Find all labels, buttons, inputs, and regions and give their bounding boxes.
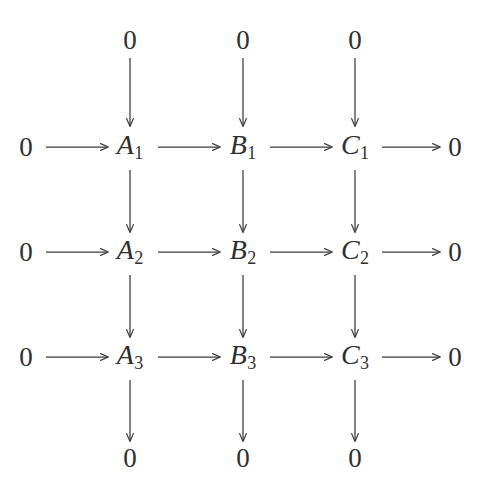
zero-object-left-row1: 0: [19, 134, 33, 161]
object-letter: B: [230, 339, 247, 370]
object-c2: C2: [341, 236, 369, 267]
object-letter: B: [230, 234, 247, 265]
object-a1: A1: [117, 131, 144, 162]
zero-object-bottom-2: 0: [236, 445, 250, 472]
object-letter: C: [341, 339, 360, 370]
zero-object-top-2: 0: [236, 27, 250, 54]
object-subscript: 2: [247, 249, 256, 269]
object-b2: B2: [230, 236, 257, 267]
zero-object-bottom-1: 0: [123, 445, 137, 472]
object-letter: B: [230, 129, 247, 160]
zero-object-right-row2: 0: [448, 239, 462, 266]
zero-object-left-row2: 0: [19, 239, 33, 266]
object-subscript: 2: [360, 249, 369, 269]
object-letter: A: [117, 339, 134, 370]
zero-object-top-3: 0: [348, 27, 362, 54]
object-a3: A3: [117, 341, 144, 372]
object-b1: B1: [230, 131, 257, 162]
zero-object-right-row3: 0: [448, 344, 462, 371]
object-subscript: 2: [134, 249, 143, 269]
object-c1: C1: [341, 131, 369, 162]
object-b3: B3: [230, 341, 257, 372]
object-letter: A: [117, 234, 134, 265]
zero-object-right-row1: 0: [448, 134, 462, 161]
zero-object-left-row3: 0: [19, 344, 33, 371]
object-a2: A2: [117, 236, 144, 267]
object-letter: A: [117, 129, 134, 160]
object-subscript: 1: [247, 144, 256, 164]
zero-object-top-1: 0: [123, 27, 137, 54]
zero-object-bottom-3: 0: [348, 445, 362, 472]
object-c3: C3: [341, 341, 369, 372]
object-subscript: 1: [134, 144, 143, 164]
object-subscript: 3: [134, 354, 143, 374]
commutative-diagram: 000000000000A1B1C1A2B2C2A3B3C3: [0, 0, 486, 491]
object-subscript: 1: [360, 144, 369, 164]
object-subscript: 3: [360, 354, 369, 374]
object-subscript: 3: [247, 354, 256, 374]
object-letter: C: [341, 129, 360, 160]
object-letter: C: [341, 234, 360, 265]
